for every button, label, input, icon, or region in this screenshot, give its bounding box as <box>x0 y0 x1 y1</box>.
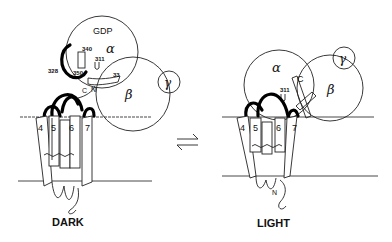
equilibrium-arrows <box>177 134 198 150</box>
dark-c-label: C <box>82 87 87 94</box>
dark-residue-340: 340 <box>82 46 93 52</box>
dark-n-label: N <box>91 86 96 93</box>
dark-helix-label-7: 7 <box>85 123 90 133</box>
dark-residue-328: 328 <box>48 68 59 74</box>
dark-residue-350: 350 <box>73 70 84 76</box>
dark-loop-d <box>84 109 94 117</box>
dark-residue-311-marker <box>95 62 99 70</box>
dark-loop-c <box>62 97 78 112</box>
light-alpha-label: α <box>272 60 281 75</box>
dark-gamma-label: γ <box>164 76 172 90</box>
dark-beta-subunit <box>96 57 170 131</box>
dark-alpha-label: α <box>106 41 115 56</box>
light-n-terminal-tail <box>279 180 286 209</box>
dark-residue-311: 311 <box>95 56 105 62</box>
dark-alpha-helix-segment <box>78 52 85 68</box>
light-panel: α β γ C 311 4 5 6 7 N LIGHT <box>222 47 378 229</box>
rhodopsin-transducin-figure: GDP α β γ 340 311 328 350 C N 33 4 5 6 7 <box>0 0 392 242</box>
light-helix-label-7: 7 <box>292 123 297 133</box>
dark-panel: GDP α β γ 340 311 328 350 C N 33 4 5 6 7 <box>18 16 180 228</box>
dark-helix-label-6: 6 <box>69 123 74 133</box>
dark-beta-label: β <box>124 87 133 102</box>
dark-gdp-label: GDP <box>93 26 113 36</box>
dark-panel-label: DARK <box>52 216 84 228</box>
light-panel-label: LIGHT <box>257 217 290 229</box>
dark-n-terminal-tail <box>69 188 79 214</box>
light-extracellular-loops <box>256 176 276 189</box>
light-loop-b <box>258 94 288 116</box>
light-helix-label-4: 4 <box>240 123 245 133</box>
light-helix-6a <box>262 122 272 154</box>
light-residue-311: 311 <box>280 87 290 93</box>
dark-helix-label-4: 4 <box>38 123 43 133</box>
light-helix-label-6: 6 <box>276 123 281 133</box>
light-c-label: C <box>297 74 304 84</box>
light-beta-label: β <box>326 82 335 97</box>
light-gamma-label: γ <box>339 52 347 66</box>
dark-helix-label-5: 5 <box>51 123 56 133</box>
dark-residue-33: 33 <box>113 72 120 78</box>
light-n-label: N <box>272 189 277 196</box>
dark-extracellular-loops <box>52 182 74 200</box>
light-helix-label-5: 5 <box>253 123 258 133</box>
